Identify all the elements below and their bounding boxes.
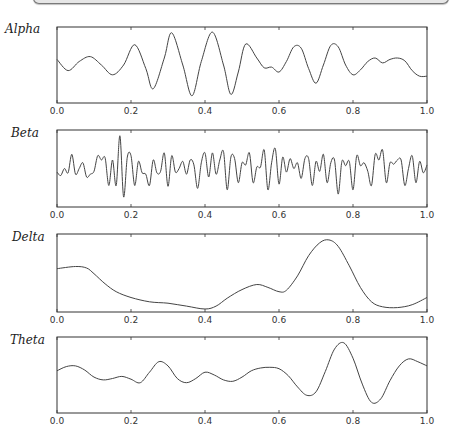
x-tick-label: 0.4 xyxy=(198,315,213,325)
x-tick-label: 0.2 xyxy=(124,416,138,426)
plot-frame xyxy=(57,27,427,103)
x-tick-label: 0.6 xyxy=(272,106,287,116)
x-tick-label: 0.0 xyxy=(50,315,65,325)
x-tick-label: 0.8 xyxy=(346,210,361,220)
x-tick-label: 0.8 xyxy=(346,315,361,325)
eeg-band-charts: 0.00.20.40.60.81.00.00.20.40.60.81.00.00… xyxy=(0,0,458,446)
x-tick-label: 0.6 xyxy=(272,210,287,220)
x-tick-label: 0.4 xyxy=(198,416,213,426)
panel-beta: 0.00.20.40.60.81.0 xyxy=(50,130,435,220)
x-tick-label: 0.2 xyxy=(124,106,138,116)
x-tick-label: 0.0 xyxy=(50,416,65,426)
x-tick-label: 0.0 xyxy=(50,106,65,116)
x-tick-label: 0.0 xyxy=(50,210,65,220)
plot-frame xyxy=(57,130,427,207)
panel-delta: 0.00.20.40.60.81.0 xyxy=(50,234,435,325)
panel-alpha: 0.00.20.40.60.81.0 xyxy=(50,27,435,116)
x-tick-label: 0.2 xyxy=(124,210,138,220)
x-tick-label: 1.0 xyxy=(420,416,435,426)
x-tick-label: 0.4 xyxy=(198,210,213,220)
x-tick-label: 0.6 xyxy=(272,416,287,426)
x-tick-label: 0.6 xyxy=(272,315,287,325)
x-tick-label: 1.0 xyxy=(420,315,435,325)
plot-frame xyxy=(57,234,427,312)
plot-frame xyxy=(57,337,427,413)
x-tick-label: 0.8 xyxy=(346,106,361,116)
x-tick-label: 0.8 xyxy=(346,416,361,426)
x-tick-label: 0.4 xyxy=(198,106,213,116)
panel-theta: 0.00.20.40.60.81.0 xyxy=(50,337,435,426)
x-tick-label: 1.0 xyxy=(420,106,435,116)
x-tick-label: 1.0 xyxy=(420,210,435,220)
x-tick-label: 0.2 xyxy=(124,315,138,325)
